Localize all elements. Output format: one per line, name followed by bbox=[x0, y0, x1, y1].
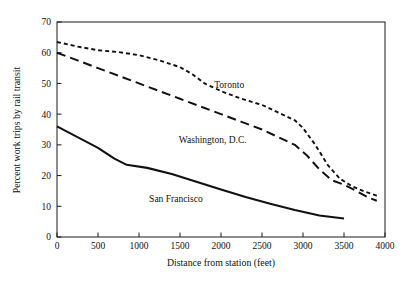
x-tick-label: 1500 bbox=[171, 241, 190, 251]
y-tick-label: 40 bbox=[42, 110, 52, 120]
x-tick-label: 0 bbox=[55, 241, 60, 251]
chart-figure: 05001000150020002500300035004000 0102030… bbox=[0, 0, 413, 282]
x-tick-label: 4000 bbox=[376, 241, 395, 251]
y-tick-label: 30 bbox=[42, 140, 52, 150]
y-axis-title: Percent work trips by rail transit bbox=[11, 66, 22, 193]
y-tick-label: 60 bbox=[42, 48, 52, 58]
line-chart: 05001000150020002500300035004000 0102030… bbox=[0, 0, 413, 282]
x-tick-label: 1000 bbox=[130, 241, 149, 251]
series-label-toronto: Toronto bbox=[214, 80, 244, 90]
y-tick-label: 10 bbox=[42, 202, 52, 212]
x-axis-title: Distance from station (feet) bbox=[167, 257, 275, 269]
series-label-washington-d-c: Washington, D.C. bbox=[179, 135, 247, 145]
y-tick-label: 20 bbox=[42, 171, 52, 181]
y-tick-label: 50 bbox=[42, 79, 52, 89]
x-tick-label: 3500 bbox=[335, 241, 354, 251]
x-tick-label: 2000 bbox=[212, 241, 231, 251]
series-label-san-francisco: San Francisco bbox=[149, 194, 203, 204]
y-tick-label: 70 bbox=[42, 17, 52, 27]
x-tick-label: 500 bbox=[91, 241, 106, 251]
y-tick-label: 0 bbox=[46, 232, 51, 242]
x-tick-label: 2500 bbox=[253, 241, 272, 251]
x-tick-label: 3000 bbox=[294, 241, 313, 251]
